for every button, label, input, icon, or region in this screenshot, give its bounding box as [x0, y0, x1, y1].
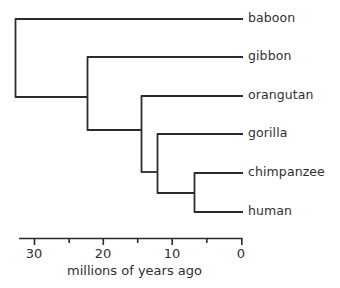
axis-tick-label-10: 10: [164, 247, 181, 260]
tip-label-gibbon: gibbon: [248, 50, 291, 63]
tip-label-orangutan: orangutan: [248, 89, 314, 102]
tree-diagram: [0, 0, 340, 288]
tip-label-baboon: baboon: [248, 12, 295, 25]
axis-tick-label-20: 20: [95, 247, 112, 260]
time-axis: [19, 238, 243, 245]
tree-branches: [15, 19, 243, 213]
phylogenetic-tree-figure: baboon gibbon orangutan gorilla chimpanz…: [0, 0, 340, 288]
tip-label-chimpanzee: chimpanzee: [248, 166, 325, 179]
axis-tick-label-0: 0: [237, 247, 245, 260]
tip-label-gorilla: gorilla: [248, 127, 288, 140]
tip-label-human: human: [248, 205, 292, 218]
axis-title: millions of years ago: [0, 264, 269, 277]
axis-tick-label-30: 30: [26, 247, 43, 260]
